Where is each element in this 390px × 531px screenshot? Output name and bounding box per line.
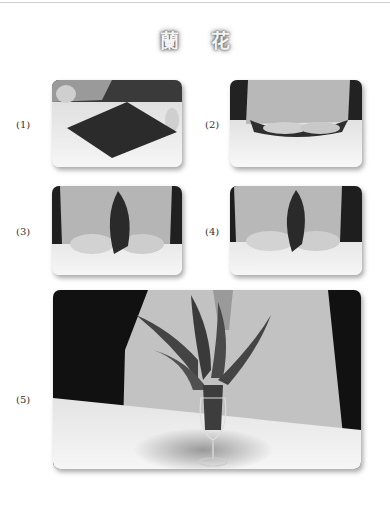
step-photo-4	[230, 186, 362, 275]
step-photo-5	[53, 290, 361, 469]
step-label-3: (3)	[16, 226, 30, 237]
step-label-1: (1)	[16, 119, 30, 130]
title-char-2: 花	[211, 26, 230, 53]
step-label-4: (4)	[205, 226, 219, 237]
step-label-5: (5)	[16, 394, 30, 405]
page-title: 蘭 花	[0, 26, 390, 53]
step-photo-2	[230, 80, 362, 167]
step-photo-1	[52, 80, 182, 167]
step-photo-3	[52, 186, 182, 275]
step-label-2: (2)	[205, 119, 219, 130]
top-rule	[0, 2, 390, 3]
title-char-1: 蘭	[160, 26, 179, 53]
